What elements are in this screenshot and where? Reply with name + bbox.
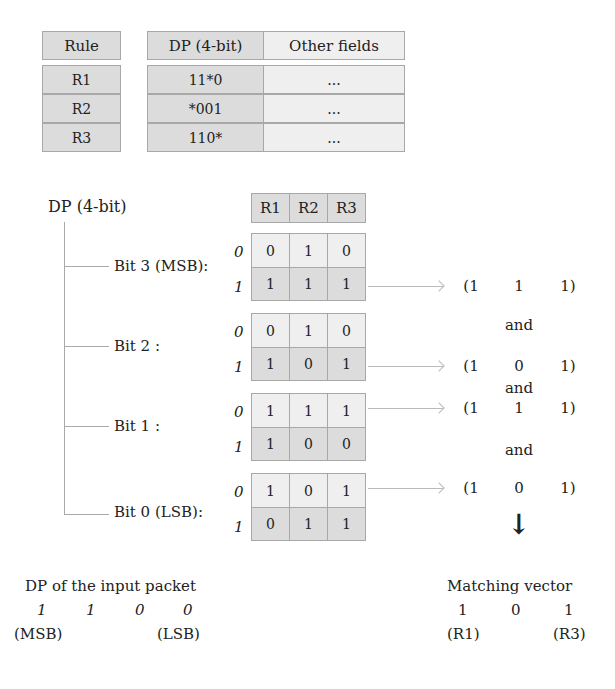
- bit-cell: 1: [327, 393, 366, 428]
- msb-label: (MSB): [14, 625, 62, 643]
- bit-cell: 1: [289, 233, 328, 268]
- rule-cell: R3: [42, 123, 121, 152]
- dp-cell: 110*: [147, 123, 264, 152]
- bit-cell: 0: [327, 313, 366, 348]
- other-cell: ...: [263, 94, 405, 123]
- tree-branch: [64, 426, 109, 427]
- match-value: 1: [458, 601, 468, 619]
- rule-cell: R1: [42, 65, 121, 94]
- r3-label: (R3): [553, 625, 586, 643]
- bit-cell: 0: [327, 233, 366, 268]
- bit-cell: 0: [251, 233, 290, 268]
- right-arrow-icon: [368, 286, 443, 287]
- down-arrow-icon: ↓: [504, 508, 534, 541]
- bit-cell: 1: [327, 507, 366, 541]
- bit1-label: Bit 1 :: [114, 417, 160, 435]
- bit-cell: 1: [327, 267, 366, 301]
- bit-cell: 1: [327, 473, 366, 508]
- other-cell: ...: [263, 65, 405, 94]
- row-label-1: 1: [234, 358, 244, 376]
- row-label-0: 0: [234, 483, 244, 501]
- bit-cell: 0: [251, 313, 290, 348]
- bit-cell: 1: [251, 473, 290, 508]
- dp-cell: 11*0: [147, 65, 264, 94]
- bit-cell: 1: [251, 347, 290, 381]
- and-label: and: [494, 441, 544, 459]
- rule-cell: R2: [42, 94, 121, 123]
- match-value: 1: [564, 601, 574, 619]
- and-label: and: [494, 316, 544, 334]
- packet-bit: 0: [183, 601, 193, 619]
- row-label-1: 1: [234, 518, 244, 536]
- vector-value: 1): [553, 357, 583, 375]
- r1-label: (R1): [447, 625, 480, 643]
- col-header-r1: R1: [251, 193, 290, 223]
- vector-value: 1: [504, 277, 534, 295]
- right-arrow-icon: [368, 488, 443, 489]
- right-arrow-icon: [368, 408, 443, 409]
- input-packet-title: DP of the input packet: [25, 577, 196, 595]
- packet-bit: 0: [135, 601, 145, 619]
- header-other-fields: Other fields: [263, 31, 405, 60]
- match-value: 0: [511, 601, 521, 619]
- vector-value: (1: [456, 399, 486, 417]
- packet-bit: 1: [86, 601, 96, 619]
- vector-value: 1): [553, 277, 583, 295]
- bit-cell: 0: [289, 473, 328, 508]
- bit-cell: 0: [289, 427, 328, 461]
- bit-cell: 0: [289, 347, 328, 381]
- bit-cell: 1: [251, 427, 290, 461]
- dp-cell: *001: [147, 94, 264, 123]
- bit-cell: 1: [327, 347, 366, 381]
- tree-branch: [64, 346, 109, 347]
- row-label-1: 1: [234, 278, 244, 296]
- and-label: and: [494, 379, 544, 397]
- bit-cell: 0: [327, 427, 366, 461]
- vector-value: (1: [456, 277, 486, 295]
- vector-value: (1: [456, 479, 486, 497]
- col-header-r3: R3: [327, 193, 366, 223]
- header-dp: DP (4-bit): [147, 31, 264, 60]
- dp-root-label: DP (4-bit): [48, 197, 127, 216]
- bit-cell: 0: [251, 507, 290, 541]
- vector-value: 1): [553, 399, 583, 417]
- vector-value: (1: [456, 357, 486, 375]
- lsb-label: (LSB): [157, 625, 200, 643]
- bit-cell: 1: [251, 267, 290, 301]
- row-label-0: 0: [234, 403, 244, 421]
- row-label-0: 0: [234, 323, 244, 341]
- header-rule: Rule: [42, 31, 121, 60]
- col-header-r2: R2: [289, 193, 328, 223]
- bit3-label: Bit 3 (MSB):: [114, 257, 208, 275]
- bit2-label: Bit 2 :: [114, 337, 160, 355]
- other-cell: ...: [263, 123, 405, 152]
- vector-value: 1: [504, 399, 534, 417]
- tree-branch: [64, 514, 109, 515]
- tree-branch: [64, 266, 109, 267]
- row-label-0: 0: [234, 243, 244, 261]
- bit-cell: 1: [289, 267, 328, 301]
- matching-vector-title: Matching vector: [447, 577, 572, 595]
- packet-bit: 1: [37, 601, 47, 619]
- bit-cell: 1: [289, 507, 328, 541]
- vector-value: 1): [553, 479, 583, 497]
- vector-value: 0: [504, 479, 534, 497]
- right-arrow-icon: [368, 366, 443, 367]
- bit-cell: 1: [289, 313, 328, 348]
- row-label-1: 1: [234, 438, 244, 456]
- vector-value: 0: [504, 357, 534, 375]
- bit0-label: Bit 0 (LSB):: [114, 503, 203, 521]
- bit-cell: 1: [251, 393, 290, 428]
- bit-cell: 1: [289, 393, 328, 428]
